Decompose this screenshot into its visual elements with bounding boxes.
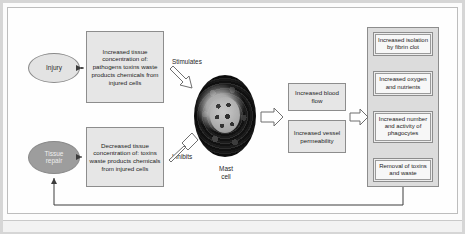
outcome-box: Increased isolation by fibrin clot: [373, 32, 433, 56]
outcome-label: Increased number and activity of phagocy…: [375, 113, 431, 141]
node-decreased-concentration-label: Decreased tissue concentration of: toxin…: [89, 142, 161, 173]
outcome-label: Increased oxygen and nutrients: [375, 73, 431, 93]
node-increased-blood-flow: Increased blood flow: [288, 83, 346, 111]
outcome-box: Increased number and activity of phagocy…: [373, 111, 433, 143]
node-increased-concentration: Increased tissue concentration of: patho…: [86, 31, 164, 103]
node-increased-concentration-label: Increased tissue concentration of: patho…: [89, 48, 161, 87]
node-tissue-repair-label: Tissue repair: [45, 151, 64, 165]
node-injury: Injury: [28, 53, 80, 83]
node-injury-label: Injury: [46, 65, 62, 72]
node-decreased-concentration: Decreased tissue concentration of: toxin…: [86, 127, 164, 187]
node-increased-blood-flow-label: Increased blood flow: [291, 89, 343, 105]
diagram-bottom-strip: [3, 220, 462, 232]
mast-cell-nucleus: [210, 97, 240, 133]
edge-label-stimulates: Stimulates: [172, 58, 202, 65]
mast-cell-illustration: [194, 75, 256, 157]
outcomes-panel: Increased isolation by fibrin clot Incre…: [367, 27, 439, 187]
outcome-label: Removal of toxins and waste: [375, 160, 431, 180]
node-increased-vessel-permeability: Increased vessel permeability: [288, 120, 346, 153]
mast-cell-label: Mast cell: [198, 165, 254, 181]
node-increased-vessel-permeability-label: Increased vessel permeability: [291, 129, 343, 145]
outcome-label: Increased isolation by fibrin clot: [375, 34, 431, 54]
edge-label-inhibits: Inhibits: [172, 153, 192, 160]
inflammation-diagram: Injury Tissue repair Increased tissue co…: [0, 0, 465, 234]
outcome-box: Removal of toxins and waste: [373, 158, 433, 182]
node-tissue-repair: Tissue repair: [28, 141, 80, 174]
outcome-box: Increased oxygen and nutrients: [373, 71, 433, 95]
